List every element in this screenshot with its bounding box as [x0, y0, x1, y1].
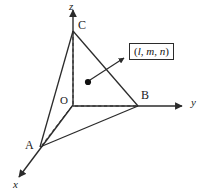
callout-symbol-m: m: [146, 45, 154, 57]
callout-leader-arrow: [90, 58, 124, 80]
edge-AC: [40, 31, 73, 147]
axis-label-y: y: [191, 97, 196, 108]
direction-cosines-callout-box: (l, m, n): [129, 43, 174, 60]
figure-3d-plane-direction-cosines: z y x C B A O (l, m, n): [0, 0, 206, 193]
axis-label-x: x: [13, 179, 18, 190]
vertex-label-C: C: [78, 19, 86, 31]
origin-label-O: O: [60, 95, 68, 106]
vertex-label-B: B: [141, 89, 149, 101]
normal-foot-point-dot: [85, 79, 91, 85]
vertex-label-A: A: [25, 139, 34, 151]
axis-label-z: z: [69, 1, 73, 12]
diagram-canvas: [0, 0, 206, 193]
callout-close-paren: ): [165, 45, 169, 57]
edge-AB: [40, 106, 138, 147]
